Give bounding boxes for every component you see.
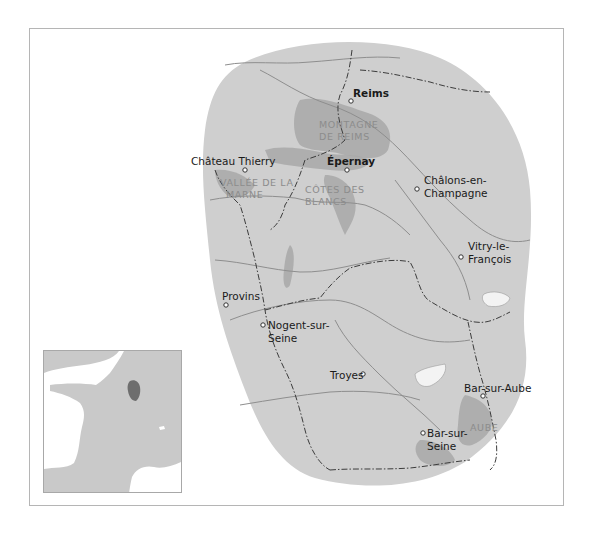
town-marker-vitry-le-francois xyxy=(459,255,463,259)
town-marker-reims xyxy=(349,99,353,103)
town-marker-chalons-en-champagne xyxy=(415,187,419,191)
town-label-vitry-le-francois: Vitry-le- François xyxy=(468,240,513,265)
france-locator-map xyxy=(44,351,182,493)
town-marker-nogent-sur-seine xyxy=(261,323,265,327)
town-label-chateau-thierry: Château Thierry xyxy=(191,155,276,167)
region-label-aube: AUBE xyxy=(470,422,498,433)
inset-france-land xyxy=(44,351,182,493)
town-marker-bar-sur-aube xyxy=(481,394,485,398)
town-label-epernay: Épernay xyxy=(327,155,375,167)
town-label-reims: Reims xyxy=(353,87,389,99)
town-label-provins: Provins xyxy=(222,290,260,302)
town-marker-epernay xyxy=(345,168,349,172)
inset-england xyxy=(44,351,119,373)
town-marker-provins xyxy=(224,303,228,307)
town-label-troyes: Troyes xyxy=(329,369,364,381)
town-label-chalons-en-champagne: Châlons-en- Champagne xyxy=(424,174,490,199)
town-marker-bar-sur-seine xyxy=(421,431,425,435)
france-locator-inset xyxy=(43,350,182,493)
town-marker-chateau-thierry xyxy=(243,168,247,172)
town-label-bar-sur-aube: Bar-sur-Aube xyxy=(464,382,531,394)
